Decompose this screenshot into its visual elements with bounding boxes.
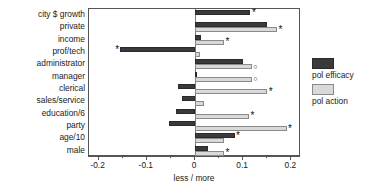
bar-pol-efficacy: [182, 96, 195, 101]
bar-group: *: [89, 9, 299, 21]
legend-label: pol efficacy: [312, 70, 386, 80]
significance-marker: ○: [253, 64, 257, 69]
bar-pol-efficacy: [178, 84, 195, 89]
y-axis-label: male: [0, 146, 85, 154]
bar-group: *: [89, 34, 299, 46]
legend-entry: pol action: [312, 84, 386, 106]
bar-pol-action: [195, 114, 249, 119]
x-axis-tick-label: 0.2: [270, 161, 310, 170]
x-axis-title: less / more: [88, 174, 300, 183]
x-axis-tick-label: 0: [174, 161, 214, 170]
bar-pol-action: [195, 40, 224, 45]
plot-area: ****○○*****: [88, 8, 300, 156]
y-axis-label: private: [0, 22, 85, 30]
bar-group: *: [89, 21, 299, 33]
y-axis-category-labels: city $ growthprivateincomeprof/techadmin…: [0, 8, 85, 148]
bar-group: *: [89, 83, 299, 95]
x-axis-tick-label: 0.1: [222, 161, 262, 170]
x-axis-tick-label: -0.2: [78, 161, 118, 170]
significance-marker: *: [252, 10, 256, 15]
y-axis-label: income: [0, 35, 85, 43]
horizontal-bar-chart: city $ growthprivateincomeprof/techadmin…: [0, 0, 386, 190]
significance-marker: ○: [253, 76, 257, 81]
bar-group: *: [89, 46, 299, 58]
bar-pol-action: [195, 77, 252, 82]
x-axis-minor-tick: [170, 156, 171, 158]
bar-pol-action: [195, 52, 200, 57]
bar-group: *: [89, 120, 299, 132]
significance-marker: *: [269, 89, 273, 94]
y-axis-label: prof/tech: [0, 47, 85, 55]
bar-pol-efficacy: [120, 47, 195, 52]
y-axis-label: city $ growth: [0, 10, 85, 18]
bar-pol-action: [195, 64, 252, 69]
y-axis-label: sales/service: [0, 96, 85, 104]
x-axis-minor-tick: [218, 156, 219, 158]
x-axis: -0.2-0.100.10.2: [88, 156, 300, 157]
legend-entry: pol efficacy: [312, 58, 386, 80]
bar-group: *: [89, 132, 299, 144]
y-axis-label: education/6: [0, 109, 85, 117]
significance-marker: *: [225, 39, 229, 44]
y-axis-label: administrator: [0, 59, 85, 67]
x-axis-minor-tick: [266, 156, 267, 158]
bar-pol-efficacy: [176, 109, 195, 114]
x-axis-tick-label: -0.1: [126, 161, 166, 170]
legend: pol efficacypol action: [312, 58, 386, 110]
significance-marker: *: [288, 126, 292, 131]
bar-group: ○: [89, 58, 299, 70]
legend-swatch-pol-action: [312, 84, 334, 95]
bar-group: ○: [89, 71, 299, 83]
bar-pol-efficacy: [169, 121, 196, 126]
bar-pol-action: [195, 27, 277, 32]
bar-pol-action: [195, 89, 267, 94]
significance-marker: *: [225, 150, 229, 155]
y-axis-label: age/10: [0, 133, 85, 141]
bar-group: [89, 95, 299, 107]
legend-swatch-pol-efficacy: [312, 58, 334, 69]
bar-pol-action: [195, 138, 224, 143]
y-axis-label: manager: [0, 72, 85, 80]
bar-group: *: [89, 108, 299, 120]
significance-marker: *: [236, 133, 240, 138]
y-axis-label: clerical: [0, 84, 85, 92]
bar-pol-action: [195, 101, 204, 106]
bar-pol-action: [195, 126, 287, 131]
significance-marker: *: [278, 27, 282, 32]
significance-marker: *: [250, 113, 254, 118]
significance-marker: *: [115, 47, 119, 52]
y-axis-label: party: [0, 121, 85, 129]
legend-label: pol action: [312, 96, 386, 106]
x-axis-minor-tick: [122, 156, 123, 158]
bar-pol-efficacy: [195, 10, 250, 15]
